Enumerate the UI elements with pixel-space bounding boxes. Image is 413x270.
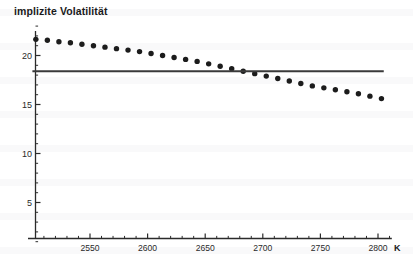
data-point-marker <box>264 73 269 78</box>
data-point-marker <box>33 37 38 42</box>
data-point-marker <box>114 46 119 51</box>
data-point-marker <box>206 61 211 66</box>
chart-canvas <box>0 0 413 270</box>
data-point-marker <box>344 89 349 94</box>
data-point-marker <box>183 57 188 62</box>
data-point-marker <box>102 44 107 49</box>
data-point-marker <box>171 55 176 60</box>
data-point-marker <box>217 64 222 69</box>
data-point-marker <box>125 47 130 52</box>
x-axis-tick-label: 2800 <box>368 243 387 253</box>
data-point-marker <box>194 59 199 64</box>
x-axis-tick-label: 2600 <box>138 243 157 253</box>
x-axis-tick-label: 2650 <box>196 243 215 253</box>
y-axis-tick-label: 10 <box>16 149 32 159</box>
y-axis-tick-label: 20 <box>16 51 32 61</box>
chart-plot-area: implizite Volatilität K 5101520255026002… <box>0 0 413 270</box>
data-point-marker <box>275 76 280 81</box>
data-point-marker <box>321 85 326 90</box>
x-axis-tick-label: 2700 <box>253 243 272 253</box>
data-point-marker <box>367 93 372 98</box>
data-point-marker <box>356 91 361 96</box>
data-point-marker <box>379 96 384 101</box>
y-axis-tick-label: 15 <box>16 100 32 110</box>
data-point-marker <box>148 51 153 56</box>
x-axis-tick-label: 2550 <box>80 243 99 253</box>
data-point-marker <box>79 42 84 47</box>
data-point-marker <box>91 43 96 48</box>
data-point-marker <box>56 39 61 44</box>
data-point-marker <box>310 83 315 88</box>
data-point-marker <box>287 78 292 83</box>
data-point-marker <box>137 49 142 54</box>
y-axis-tick-label: 5 <box>16 198 32 208</box>
data-point-marker <box>298 81 303 86</box>
data-point-marker <box>333 87 338 92</box>
data-point-marker <box>68 40 73 45</box>
data-point-marker <box>160 53 165 58</box>
x-axis-tick-label: 2750 <box>311 243 330 253</box>
x-axis-label: K <box>394 243 401 253</box>
data-point-marker <box>45 38 50 43</box>
